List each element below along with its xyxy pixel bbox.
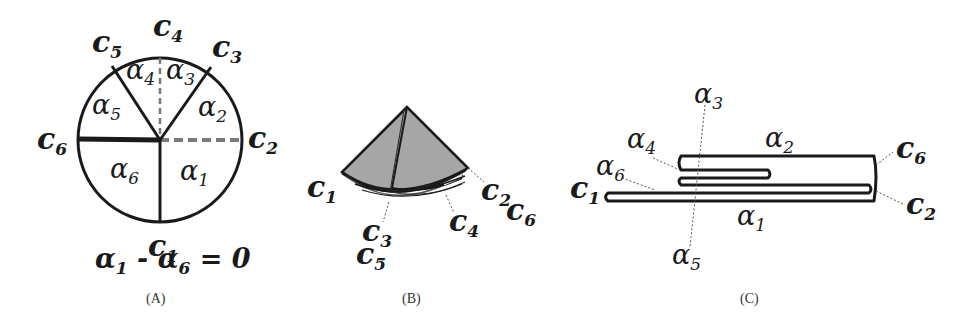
label-c4: c4 xyxy=(153,8,183,46)
label-c2: c2 xyxy=(248,120,278,158)
label-c-c6: c6 xyxy=(896,130,926,168)
label-c-c2: c2 xyxy=(906,186,936,224)
label-c-alpha4: α4 xyxy=(627,123,656,158)
label-c-alpha3: α3 xyxy=(694,78,723,113)
label-alpha1: α1 xyxy=(180,155,209,190)
label-b-c1: c1 xyxy=(307,169,337,207)
folded-strip-outline xyxy=(606,156,877,201)
caption-b: (B) xyxy=(402,291,421,307)
label-c-alpha2: α2 xyxy=(765,122,794,157)
label-alpha6: α6 xyxy=(110,153,139,188)
leader-c3 xyxy=(383,202,389,222)
caption-c: (C) xyxy=(740,291,759,307)
label-alpha3: α3 xyxy=(166,54,195,89)
leader-alpha6 xyxy=(622,178,655,190)
label-c3: c3 xyxy=(212,29,242,67)
label-c-alpha6: α6 xyxy=(596,150,625,185)
caption-a: (A) xyxy=(146,291,166,307)
label-c5: c5 xyxy=(92,24,122,62)
label-alpha2: α2 xyxy=(198,91,227,126)
equation: α1 - α6 = 0 xyxy=(95,243,251,278)
leader-alpha4 xyxy=(653,158,680,170)
label-c6: c6 xyxy=(37,121,67,159)
label-b-c4: c4 xyxy=(449,203,479,241)
leader-c2 xyxy=(876,191,905,205)
label-c-alpha5: α5 xyxy=(672,239,701,274)
crease-c6-thick xyxy=(79,139,160,140)
figure: c1 c2 c3 c4 c5 c6 α1 α2 α3 α4 α5 α6 α1 -… xyxy=(0,0,961,331)
label-alpha5: α5 xyxy=(92,89,121,124)
panel-b: c1 c2 c6 c3 c5 c4 (B) xyxy=(307,107,536,307)
leader-c6 xyxy=(876,152,893,165)
panel-a: c1 c2 c3 c4 c5 c6 α1 α2 α3 α4 α5 α6 α1 -… xyxy=(37,8,278,307)
panel-c: α3 α4 α2 α6 α1 α5 c1 c6 c2 (C) xyxy=(570,78,936,307)
leader-alpha3-alpha5 xyxy=(690,105,705,247)
label-c-alpha1: α1 xyxy=(737,200,766,235)
label-b-c6: c6 xyxy=(506,192,536,230)
